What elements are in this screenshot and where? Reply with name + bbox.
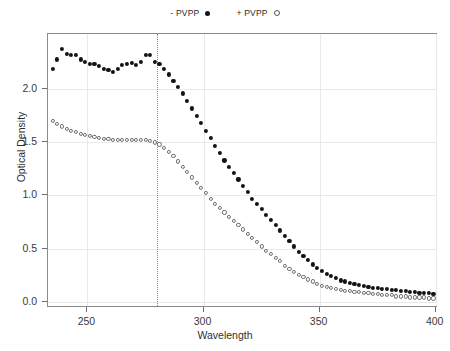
data-point-plus-pvpp (218, 206, 222, 210)
data-point-minus-pvpp (213, 143, 217, 147)
data-point-minus-pvpp (51, 67, 55, 71)
data-point-plus-pvpp (162, 146, 166, 150)
data-point-minus-pvpp (264, 212, 268, 216)
data-point-minus-pvpp (222, 158, 226, 162)
data-point-plus-pvpp (301, 275, 305, 279)
data-point-minus-pvpp (311, 262, 315, 266)
data-point-plus-pvpp (208, 197, 212, 201)
y-axis-tick (42, 248, 47, 249)
data-point-minus-pvpp (343, 279, 347, 283)
x-axis-tick (203, 307, 204, 312)
plot-area (47, 33, 437, 307)
data-point-minus-pvpp (78, 57, 82, 61)
data-point-plus-pvpp (269, 252, 273, 256)
data-point-plus-pvpp (380, 293, 384, 297)
data-point-minus-pvpp (143, 53, 147, 57)
data-point-plus-pvpp (78, 132, 82, 136)
data-point-plus-pvpp (348, 289, 352, 293)
legend-label-plus-pvpp: + PVPP (236, 8, 267, 18)
data-point-plus-pvpp (338, 288, 342, 292)
data-point-plus-pvpp (297, 273, 301, 277)
data-point-plus-pvpp (394, 294, 398, 298)
data-point-minus-pvpp (92, 62, 96, 66)
data-point-plus-pvpp (74, 130, 78, 134)
data-point-plus-pvpp (408, 295, 412, 299)
x-axis-tick (319, 307, 320, 312)
x-axis-label: Wavelength (0, 329, 450, 341)
x-axis-tick-label: 400 (426, 315, 444, 327)
data-point-minus-pvpp (250, 197, 254, 201)
data-point-plus-pvpp (176, 159, 180, 163)
data-point-plus-pvpp (320, 284, 324, 288)
data-point-minus-pvpp (69, 53, 73, 57)
data-point-plus-pvpp (413, 295, 417, 299)
data-point-plus-pvpp (232, 219, 236, 223)
data-point-minus-pvpp (389, 288, 393, 292)
data-point-minus-pvpp (236, 177, 240, 181)
data-point-minus-pvpp (385, 287, 389, 291)
data-point-plus-pvpp (171, 154, 175, 158)
data-point-minus-pvpp (232, 171, 236, 175)
data-point-plus-pvpp (403, 294, 407, 298)
data-point-minus-pvpp (306, 258, 310, 262)
data-point-minus-pvpp (348, 280, 352, 284)
data-point-minus-pvpp (241, 184, 245, 188)
data-point-minus-pvpp (403, 289, 407, 293)
data-point-minus-pvpp (208, 136, 212, 140)
data-point-plus-pvpp (181, 165, 185, 169)
data-point-plus-pvpp (102, 137, 106, 141)
legend-marker-filled-circle-icon (205, 11, 210, 16)
gridline-horizontal (48, 89, 436, 90)
reference-line-280nm (157, 34, 158, 306)
data-point-minus-pvpp (366, 285, 370, 289)
x-axis-tick-label: 250 (78, 315, 96, 327)
y-axis-tick-label: 1.5 (3, 135, 37, 147)
data-point-minus-pvpp (255, 202, 259, 206)
gridline-horizontal (48, 249, 436, 250)
data-point-minus-pvpp (111, 70, 115, 74)
gridline-vertical (204, 34, 205, 306)
data-point-plus-pvpp (389, 293, 393, 297)
gridline-vertical (320, 34, 321, 306)
gridline-horizontal (48, 195, 436, 196)
data-point-plus-pvpp (51, 119, 55, 123)
data-point-minus-pvpp (190, 106, 194, 110)
y-axis-tick-label: 1.0 (3, 188, 37, 200)
data-point-minus-pvpp (334, 276, 338, 280)
data-point-minus-pvpp (269, 218, 273, 222)
data-point-plus-pvpp (236, 223, 240, 227)
data-point-plus-pvpp (185, 170, 189, 174)
optical-density-chart: - PVPP + PVPP Optical Density Wavelength… (0, 0, 450, 351)
legend-label-minus-pvpp: - PVPP (170, 8, 199, 18)
data-point-plus-pvpp (255, 240, 259, 244)
data-point-minus-pvpp (427, 291, 431, 295)
y-axis-tick-label: 0.5 (3, 242, 37, 254)
data-point-minus-pvpp (74, 53, 78, 57)
gridline-vertical (436, 34, 437, 306)
data-point-minus-pvpp (320, 269, 324, 273)
data-point-plus-pvpp (422, 295, 426, 299)
data-point-plus-pvpp (246, 232, 250, 236)
data-point-minus-pvpp (371, 286, 375, 290)
x-axis-tick (86, 307, 87, 312)
data-point-plus-pvpp (334, 287, 338, 291)
data-point-plus-pvpp (106, 137, 110, 141)
legend-entry-minus-pvpp: - PVPP (170, 8, 210, 18)
data-point-plus-pvpp (92, 135, 96, 139)
data-point-plus-pvpp (273, 256, 277, 260)
data-point-plus-pvpp (343, 289, 347, 293)
data-point-plus-pvpp (194, 181, 198, 185)
data-point-minus-pvpp (129, 61, 133, 65)
chart-legend: - PVPP + PVPP (0, 8, 450, 18)
data-point-minus-pvpp (376, 286, 380, 290)
y-axis-tick (42, 301, 47, 302)
data-point-minus-pvpp (352, 281, 356, 285)
data-point-minus-pvpp (97, 64, 101, 68)
data-point-plus-pvpp (278, 259, 282, 263)
y-axis-tick-label: 2.0 (3, 82, 37, 94)
y-axis-tick (42, 194, 47, 195)
data-point-minus-pvpp (408, 290, 412, 294)
data-point-minus-pvpp (278, 228, 282, 232)
data-point-minus-pvpp (204, 129, 208, 133)
data-point-plus-pvpp (371, 292, 375, 296)
